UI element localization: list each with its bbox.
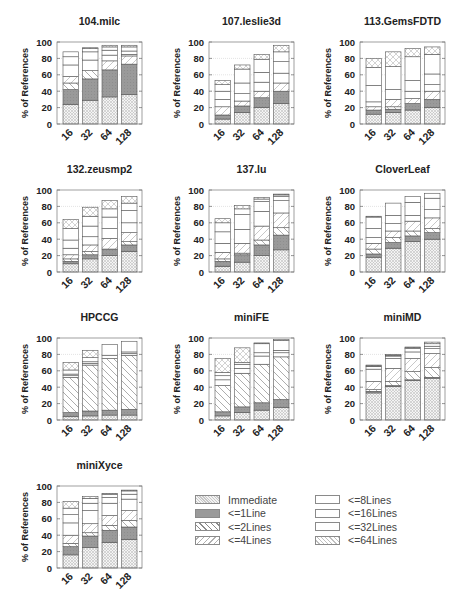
y-tick-label: 20: [344, 102, 355, 113]
bar-segment-16lines: [83, 52, 99, 60]
bar-segment-4lines: [122, 511, 138, 521]
bar-segment-8lines: [102, 355, 118, 358]
stacked-bar-32: [235, 206, 251, 272]
y-tick-label: 0: [350, 267, 355, 278]
bar-segment-1line: [102, 70, 118, 97]
bar-segment-64lines: [366, 365, 382, 366]
y-tick-label: 100: [36, 333, 52, 344]
bar-segment-64lines: [425, 342, 441, 344]
bar-segment-32lines: [235, 69, 251, 83]
y-tick-label: 0: [350, 415, 355, 426]
bar-segment-32lines: [215, 85, 231, 92]
x-tick-label: 64: [400, 422, 417, 439]
x-tick-label: 128: [265, 126, 286, 147]
bar-segment-4lines: [386, 231, 402, 238]
y-tick-label: 20: [41, 250, 52, 261]
y-axis-label: % of References: [323, 48, 333, 118]
y-tick-label: 80: [344, 349, 355, 360]
bar-segment-4lines: [405, 359, 421, 372]
chart-hpccg: HPCCG% of References02040608010016326412…: [20, 311, 142, 443]
y-tick-label: 80: [193, 201, 204, 212]
y-tick-label: 0: [47, 563, 52, 574]
legend-swatch-icon: [315, 536, 340, 545]
chart-132-zeusmp2: 132.zeusmp2% of References02040608010016…: [20, 163, 142, 295]
bar-segment-immediate: [235, 413, 251, 420]
bar-segment-immediate: [63, 264, 79, 272]
y-tick-label: 0: [199, 415, 204, 426]
bar-segment-16lines: [405, 349, 421, 352]
legend-item-l2: <=2Lines: [195, 520, 271, 533]
y-tick-label: 80: [193, 349, 204, 360]
bar-segment-64lines: [366, 58, 382, 67]
bar-segment-64lines: [215, 359, 231, 373]
bar-segment-8lines: [254, 211, 270, 226]
stacked-bar-128: [425, 47, 441, 124]
bar-segment-32lines: [405, 197, 421, 203]
stacked-bar-128: [425, 193, 441, 272]
stacked-bar-64: [405, 49, 421, 124]
bar-segment-immediate: [405, 381, 421, 420]
bar-segment-64lines: [366, 216, 382, 217]
bar-segment-32lines: [425, 344, 441, 346]
x-tick-label: 16: [361, 422, 378, 439]
y-tick-label: 20: [193, 250, 204, 261]
bar-segment-64lines: [102, 493, 118, 494]
bar-segment-32lines: [425, 193, 441, 198]
bar-segment-16lines: [274, 197, 290, 201]
bar-segment-1line: [215, 412, 231, 416]
chart-title: miniFE: [234, 311, 269, 323]
bar-segment-1line: [102, 410, 118, 415]
bar-segment-immediate: [102, 256, 118, 272]
bar-segment-64lines: [83, 207, 99, 216]
x-tick-label: 16: [361, 126, 378, 143]
bar-segment-1line: [122, 527, 138, 539]
x-tick-label: 128: [416, 422, 437, 443]
bar-segment-64lines: [83, 48, 99, 49]
bar-segment-8lines: [425, 210, 441, 218]
x-tick-label: 32: [78, 126, 95, 143]
bar-segment-64lines: [274, 194, 290, 195]
legend-item-l16: <=16Lines: [315, 507, 397, 520]
bar-segment-1line: [425, 233, 441, 240]
bar-segment-8lines: [102, 229, 118, 239]
bar-segment-immediate: [235, 262, 251, 272]
stacked-bar-32: [83, 207, 99, 272]
bar-segment-2lines: [366, 249, 382, 254]
y-tick-label: 20: [193, 398, 204, 409]
y-tick-label: 40: [41, 86, 52, 97]
x-tick-label: 64: [97, 274, 114, 291]
bar-segment-16lines: [274, 62, 290, 73]
stacked-bar-128: [122, 341, 138, 420]
bar-segment-2lines: [386, 107, 402, 109]
chart-minixyce: miniXyce% of References02040608010016326…: [20, 459, 142, 591]
bar-segment-1line: [215, 261, 231, 266]
chart-104-milc: 104.milc% of References02040608010016326…: [20, 15, 142, 147]
chart-title: 107.leslie3d: [222, 15, 281, 27]
stacked-bar-16: [215, 359, 231, 421]
bar-segment-2lines: [83, 71, 99, 79]
bar-segment-16lines: [235, 83, 251, 94]
y-tick-label: 0: [47, 415, 52, 426]
bar-segment-4lines: [102, 238, 118, 249]
bar-segment-8lines: [63, 248, 79, 255]
bar-segment-32lines: [122, 341, 138, 352]
bar-segment-32lines: [274, 52, 290, 62]
bar-segment-4lines: [254, 226, 270, 240]
bar-segment-immediate: [405, 110, 421, 124]
x-tick-label: 64: [97, 570, 114, 587]
chart-113-gemsfdtd: 113.GemsFDTD% of References0204060801001…: [323, 15, 445, 147]
stacked-bar-64: [102, 45, 118, 124]
y-tick-label: 80: [41, 201, 52, 212]
bar-segment-16lines: [63, 57, 79, 65]
y-tick-label: 80: [41, 497, 52, 508]
bar-segment-32lines: [254, 59, 270, 72]
bar-segment-4lines: [425, 354, 441, 368]
bar-segment-immediate: [254, 410, 270, 420]
y-axis-label: % of References: [172, 344, 182, 414]
legend: Immediate<=1Line<=2Lines<=4Lines<=8Lines…: [195, 493, 445, 563]
y-axis-label: % of References: [172, 48, 182, 118]
x-tick-label: 16: [210, 126, 227, 143]
bar-segment-8lines: [215, 99, 231, 106]
stacked-bar-128: [122, 490, 138, 568]
bar-segment-16lines: [235, 364, 251, 368]
